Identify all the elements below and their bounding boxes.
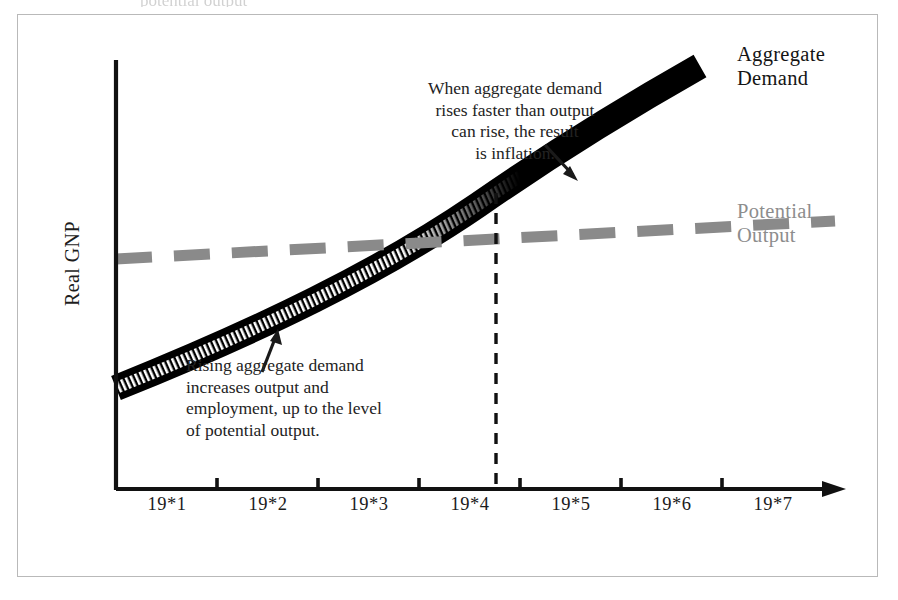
series-label-potential-output: Potential Output (737, 199, 813, 247)
annotation-inflation-line-3: can rise, the result (385, 121, 645, 143)
x-tick-label-4: 19*5 (534, 494, 608, 515)
x-tick-label-5: 19*6 (635, 494, 709, 515)
y-axis-label: Real GNP (61, 189, 84, 339)
x-tick-label-6: 19*7 (736, 494, 810, 515)
annotation-output-growth-line-1: Rising aggregate demand (186, 355, 476, 377)
annotation-output-growth-line-4: of potential output. (186, 420, 476, 442)
annotation-inflation-line-2: rises faster than output (385, 100, 645, 122)
annotation-output-growth-line-3: employment, up to the level (186, 398, 476, 420)
x-axis-arrowhead (822, 481, 846, 497)
x-tick-label-3: 19*4 (433, 494, 507, 515)
series-label-aggregate-demand-line-1: Aggregate (737, 42, 825, 66)
series-potential-output (116, 221, 835, 259)
annotation-inflation: When aggregate demand rises faster than … (385, 78, 645, 164)
series-label-aggregate-demand-line-2: Demand (737, 66, 825, 90)
series-label-potential-output-line-1: Potential (737, 199, 813, 223)
x-tick-label-0: 19*1 (130, 494, 204, 515)
series-label-aggregate-demand: Aggregate Demand (737, 42, 825, 90)
annotation-inflation-line-1: When aggregate demand (385, 78, 645, 100)
annotation-output-growth: Rising aggregate demand increases output… (186, 355, 476, 441)
annotation-inflation-line-4: is inflation. (385, 143, 645, 165)
figure-canvas: potential output (0, 0, 898, 600)
x-tick-label-2: 19*3 (332, 494, 406, 515)
x-tick-label-1: 19*2 (231, 494, 305, 515)
annotation-output-growth-line-2: increases output and (186, 377, 476, 399)
series-label-potential-output-line-2: Output (737, 223, 813, 247)
